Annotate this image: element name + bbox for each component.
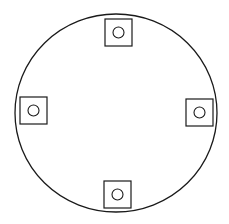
square-markers	[20, 19, 213, 208]
square-marker-left	[20, 97, 47, 124]
square-bottom	[104, 181, 131, 208]
square-top	[105, 19, 132, 46]
square-marker-top	[105, 19, 132, 46]
square-left	[20, 97, 47, 124]
square-marker-right	[186, 99, 213, 126]
square-right	[186, 99, 213, 126]
square-marker-bottom	[104, 181, 131, 208]
diagram-canvas	[0, 0, 229, 224]
